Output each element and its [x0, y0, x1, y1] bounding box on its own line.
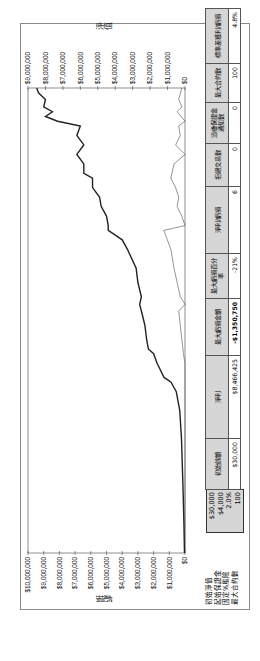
- svg-text:$0: $0: [181, 76, 188, 84]
- param-label: 最大合約數: [231, 570, 240, 605]
- stats-header: 追繳保證金通知數: [206, 103, 229, 144]
- equity-line: [37, 88, 185, 553]
- svg-text:$0: $0: [181, 557, 188, 565]
- stats-header: 標準差獲利/虧損: [206, 9, 229, 64]
- svg-text:$4,000,000: $4,000,000: [118, 557, 125, 589]
- right-axis-title: 淨值: [96, 21, 112, 41]
- svg-text:$7,000,000: $7,000,000: [59, 52, 66, 84]
- svg-text:$9,000,000: $9,000,000: [40, 557, 47, 589]
- svg-text:$2,000,000: $2,000,000: [146, 52, 153, 84]
- param-label: 初始淨值: [205, 570, 214, 605]
- stats-header: 最大虧損百分率: [206, 254, 229, 299]
- stats-value: 6: [229, 187, 241, 254]
- svg-text:$3,000,000: $3,000,000: [134, 557, 141, 589]
- stats-value: 100: [229, 64, 241, 103]
- stats-value: -21%: [229, 254, 241, 299]
- svg-text:$7,000,000: $7,000,000: [71, 557, 78, 589]
- param-label: 起始保證金: [214, 570, 223, 605]
- param-value: 2.0%: [225, 492, 234, 530]
- stats-header: 初始餘額: [206, 439, 229, 490]
- stats-value-row: $30,000 $8,466,425 -$1,350,750 -21% 6 0 …: [229, 9, 241, 490]
- param-value: $4,000: [217, 492, 226, 530]
- stats-header: 最大虧損金額: [206, 299, 229, 356]
- param-value: 100: [234, 492, 243, 530]
- params-values: $30,000 $4,000 2.0% 100: [206, 489, 244, 533]
- svg-text:$6,000,000: $6,000,000: [87, 557, 94, 589]
- param-value: $30,000: [208, 492, 217, 530]
- stats-header: 淨利: [206, 356, 229, 439]
- svg-text:$2,000,000: $2,000,000: [150, 557, 157, 589]
- svg-text:$8,000,000: $8,000,000: [56, 557, 63, 589]
- svg-text:$5,000,000: $5,000,000: [94, 52, 101, 84]
- svg-text:$6,000,000: $6,000,000: [77, 52, 84, 84]
- stats-value: $30,000: [229, 439, 241, 490]
- svg-text:$9,000,000: $9,000,000: [24, 52, 31, 84]
- left-axis-title: 虧損: [96, 583, 112, 603]
- stats-value: -$1,350,750: [229, 299, 241, 356]
- stats-header-row: 初始餘額 淨利 最大虧損金額 最大虧損百分率 淨利/虧損 拒絕交易數 追繳保證金…: [206, 9, 229, 490]
- stats-header: 淨利/虧損: [206, 187, 229, 254]
- stats-table: 初始餘額 淨利 最大虧損金額 最大虧損百分率 淨利/虧損 拒絕交易數 追繳保證金…: [205, 8, 241, 490]
- stats-header: 拒絕交易數: [206, 144, 229, 187]
- params-labels: 初始淨值 起始保證金 固定%風險 最大合約數: [205, 570, 239, 605]
- rotated-chart-page: $10,000,000$9,000,000$8,000,000$7,000,00…: [0, 0, 260, 661]
- svg-text:$10,000,000: $10,000,000: [24, 557, 31, 593]
- stats-value: 0: [229, 103, 241, 144]
- param-label: 固定%風險: [222, 570, 231, 605]
- stats-value: 4.8%: [229, 9, 241, 64]
- svg-text:$1,000,000: $1,000,000: [166, 557, 173, 589]
- stats-value: 0: [229, 144, 241, 187]
- svg-text:$8,000,000: $8,000,000: [42, 52, 49, 84]
- svg-text:$3,000,000: $3,000,000: [129, 52, 136, 84]
- svg-text:$4,000,000: $4,000,000: [111, 52, 118, 84]
- plot-area: $10,000,000$9,000,000$8,000,000$7,000,00…: [28, 88, 185, 553]
- drawdown-line: [164, 88, 185, 553]
- stats-value: $8,466,425: [229, 356, 241, 439]
- stats-header: 最大合約數: [206, 64, 229, 103]
- svg-text:$1,000,000: $1,000,000: [164, 52, 171, 84]
